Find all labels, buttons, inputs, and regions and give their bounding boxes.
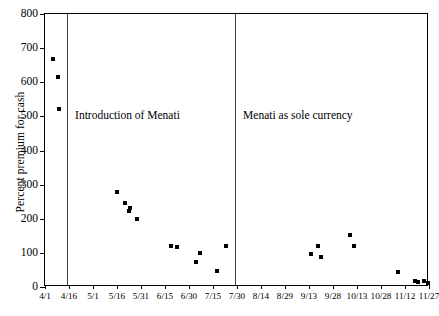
x-axis-tick-label: 4/1 xyxy=(39,292,51,301)
divider-sole-currency xyxy=(235,14,236,285)
data-point xyxy=(57,107,61,111)
data-point xyxy=(135,217,139,221)
y-axis-tick xyxy=(40,151,45,152)
x-axis-tick xyxy=(429,285,430,289)
data-point xyxy=(348,233,352,237)
plot-area: 0100200300400500600700800 4/14/165/15/16… xyxy=(44,13,428,286)
x-axis-tick xyxy=(45,285,46,289)
data-point xyxy=(319,255,323,259)
data-point xyxy=(224,244,228,248)
x-axis-tick-label: 8/29 xyxy=(277,292,293,301)
x-axis-tick xyxy=(285,285,286,289)
y-axis-tick-label: 200 xyxy=(21,213,38,225)
data-point xyxy=(198,251,202,255)
x-axis-tick-label: 4/16 xyxy=(61,292,77,301)
data-point xyxy=(51,57,55,61)
data-point xyxy=(426,281,430,285)
x-axis-tick-label: 7/30 xyxy=(229,292,245,301)
y-axis-tick-label: 100 xyxy=(21,247,38,259)
x-axis-tick xyxy=(189,285,190,289)
x-axis-tick xyxy=(381,285,382,289)
data-point xyxy=(123,201,127,205)
y-axis-tick xyxy=(40,82,45,83)
data-point xyxy=(396,270,400,274)
x-axis-tick-label: 10/28 xyxy=(371,292,392,301)
y-axis-tick-label: 500 xyxy=(21,111,38,123)
x-axis-tick xyxy=(117,285,118,289)
y-axis-tick-label: 400 xyxy=(21,145,38,157)
annotation-sole-currency: Menati as sole currency xyxy=(243,110,353,122)
y-axis-tick xyxy=(40,14,45,15)
y-axis-tick xyxy=(40,253,45,254)
x-axis-tick xyxy=(261,285,262,289)
x-axis-tick-label: 5/31 xyxy=(133,292,149,301)
y-axis-tick xyxy=(40,185,45,186)
x-axis-tick xyxy=(309,285,310,289)
x-axis-tick-label: 11/27 xyxy=(419,292,439,301)
x-axis-tick-label: 9/28 xyxy=(325,292,341,301)
y-axis-tick-label: 600 xyxy=(21,77,38,89)
x-axis-tick xyxy=(237,285,238,289)
data-point xyxy=(56,75,60,79)
x-axis-tick-label: 6/15 xyxy=(157,292,173,301)
annotation-introduction: Introduction of Menati xyxy=(75,110,180,122)
x-axis-tick xyxy=(69,285,70,289)
x-axis-tick-label: 9/13 xyxy=(301,292,317,301)
y-axis-tick-label: 700 xyxy=(21,42,38,54)
y-axis-tick xyxy=(40,48,45,49)
x-axis-tick xyxy=(357,285,358,289)
x-axis-tick-label: 11/12 xyxy=(395,292,416,301)
x-axis-tick-label: 7/15 xyxy=(205,292,221,301)
data-point xyxy=(416,280,420,284)
x-axis-tick-label: 5/1 xyxy=(87,292,99,301)
x-axis-tick-label: 6/30 xyxy=(181,292,197,301)
x-axis-tick xyxy=(405,285,406,289)
data-point xyxy=(215,269,219,273)
y-axis-tick xyxy=(40,219,45,220)
data-point xyxy=(115,190,119,194)
data-point xyxy=(316,244,320,248)
data-point xyxy=(194,260,198,264)
data-point xyxy=(175,245,179,249)
x-axis-tick-label: 5/16 xyxy=(109,292,125,301)
x-axis-tick xyxy=(141,285,142,289)
divider-introduction xyxy=(67,14,68,285)
data-point xyxy=(169,244,173,248)
data-point xyxy=(127,209,131,213)
y-axis-tick xyxy=(40,116,45,117)
y-axis-tick-label: 300 xyxy=(21,179,38,191)
x-axis-tick-label: 10/13 xyxy=(347,292,368,301)
x-axis-tick xyxy=(213,285,214,289)
x-axis-tick xyxy=(333,285,334,289)
y-axis-tick-label: 800 xyxy=(21,8,38,20)
x-axis-tick xyxy=(93,285,94,289)
y-axis-tick-label: 0 xyxy=(32,281,38,293)
x-axis-tick xyxy=(165,285,166,289)
x-axis-tick-label: 8/14 xyxy=(253,292,269,301)
data-point xyxy=(352,244,356,248)
data-point xyxy=(309,252,313,256)
